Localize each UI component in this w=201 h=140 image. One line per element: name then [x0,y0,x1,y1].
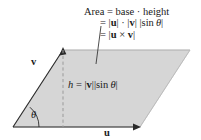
formula-line-3-cross: × [119,29,125,40]
formula-line-2: = |u| · |v| |sin θ| [84,17,169,28]
formula-line-2-sin: sin [142,17,154,28]
formula-line-3-vector-u: u [111,29,117,40]
height-label: h = |v||sin θ| [68,80,118,91]
parallelogram-cross-product-figure: Area = base · height = |u| · |v| |sin θ|… [0,0,201,140]
height-label-equals: = [76,79,82,90]
area-formula-block: Area = base · height = |u| · |v| |sin θ|… [84,6,169,40]
formula-line-3-bar-close: | [133,29,135,40]
vector-u-label: u [104,128,110,139]
height-label-bar-close-sin: | [116,79,118,90]
formula-line-2-equals: = [100,17,106,28]
vector-v-label: v [31,57,36,68]
formula-line-2-bar-close-sin: | [161,17,163,28]
formula-line-2-bar-close-u: | [117,17,119,28]
formula-line-3: = |u × v| [84,29,169,40]
formula-line-1: Area = base · height [84,6,169,17]
height-label-h: h [68,79,73,90]
formula-line-2-dot: · [121,17,125,28]
formula-line-3-equals: = [100,29,106,40]
formula-line-2-bar-close-v: | [135,17,137,28]
angle-theta-label: θ [31,110,36,121]
height-label-sin: sin [96,79,108,90]
